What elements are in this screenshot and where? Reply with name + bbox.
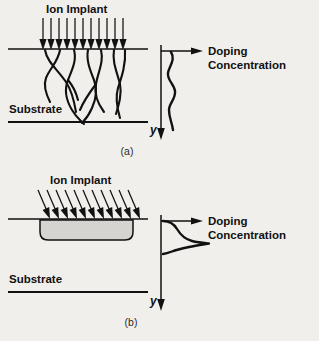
ion-arrow — [63, 18, 70, 50]
panel-a-y-axis-label: y — [149, 123, 158, 137]
panel-b-x-axis-label-line2: Concentration — [208, 229, 286, 241]
panel-b-y-axis-label: y — [149, 294, 158, 308]
ion-arrow — [55, 18, 62, 50]
ion-arrow — [87, 18, 94, 50]
panel-b-substrate-label: Substrate — [9, 273, 62, 285]
panel-a-profile-curve — [168, 52, 175, 130]
panel-b-x-axis-arrowhead — [191, 217, 203, 224]
ion-arrow — [119, 18, 126, 50]
panel-a-x-axis-label-line1: Doping — [208, 45, 248, 57]
ion-arrow — [103, 18, 110, 50]
panel-b-ion-implant-label: Ion Implant — [50, 174, 112, 186]
ion-arrow — [79, 18, 86, 50]
panel-b-profile-curve — [163, 221, 209, 254]
ion-implantation-figure: Ion Implant — [0, 0, 319, 341]
panel-b-y-axis-arrowhead — [157, 299, 165, 311]
panel-b-caption: (b) — [125, 316, 138, 328]
panel-a-profile-plot: y Doping Concentration — [149, 45, 286, 140]
panel-b-ion-beam — [38, 190, 140, 219]
panel-b-x-axis-label-line1: Doping — [208, 215, 248, 227]
ion-arrow — [71, 18, 78, 50]
ion-arrow — [111, 18, 118, 50]
panel-a-x-axis-arrowhead — [191, 47, 203, 54]
panel-b: Ion Implant — [8, 174, 286, 328]
panel-a-ion-implant-label: Ion Implant — [46, 3, 108, 15]
panel-a-y-axis-arrowhead — [157, 128, 165, 140]
panel-a-x-axis-label-line2: Concentration — [208, 59, 286, 71]
panel-a: Ion Implant — [8, 3, 286, 157]
ion-arrow — [39, 18, 46, 50]
ion-arrow — [47, 18, 54, 50]
panel-a-caption: (a) — [121, 145, 134, 157]
panel-a-substrate-label: Substrate — [9, 103, 62, 115]
panel-b-implanted-region — [40, 220, 133, 240]
panel-b-profile-plot: y Doping Concentration — [149, 215, 286, 311]
ion-arrow — [95, 18, 102, 50]
panel-a-ion-beam — [39, 18, 126, 50]
